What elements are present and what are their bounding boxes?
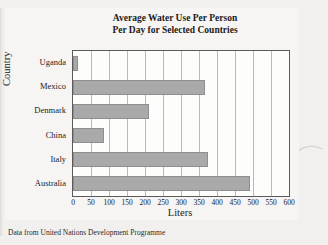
category-label: Denmark — [11, 98, 69, 122]
bar-row — [73, 51, 289, 75]
x-tick-label: 50 — [87, 198, 95, 207]
x-tick-label: 0 — [71, 198, 75, 207]
x-tick-label: 200 — [139, 198, 150, 207]
scan-text-fragment — [58, 0, 178, 8]
x-tick-label: 600 — [283, 198, 294, 207]
category-label: Mexico — [11, 74, 69, 98]
category-label: Uganda — [11, 50, 69, 74]
x-tick-label: 350 — [193, 198, 204, 207]
bar-italy — [73, 152, 208, 167]
bar-row — [73, 148, 289, 172]
source-note: Data from United Nations Development Pro… — [8, 228, 165, 237]
bar-row — [73, 75, 289, 99]
x-axis-title: Liters — [72, 207, 288, 218]
plot-area — [72, 50, 290, 197]
x-tick-label: 250 — [157, 198, 168, 207]
x-tick-label: 100 — [103, 198, 114, 207]
bar-denmark — [73, 104, 149, 119]
category-label: China — [11, 122, 69, 146]
bar-mexico — [73, 80, 205, 95]
category-axis-labels: UgandaMexicoDenmarkChinaItalyAustralia — [11, 50, 69, 195]
page-edge-shadow — [0, 8, 3, 236]
chart-title-line-1: Average Water Use Per Person — [60, 12, 290, 24]
x-tick-label: 300 — [175, 198, 186, 207]
bar-row — [73, 123, 289, 147]
x-tick-label: 150 — [121, 198, 132, 207]
chart-title: Average Water Use Per Person Per Day for… — [60, 12, 290, 36]
x-tick-label: 400 — [211, 198, 222, 207]
category-label: Australia — [11, 171, 69, 195]
category-label: Italy — [11, 147, 69, 171]
bar-australia — [73, 176, 250, 191]
x-tick-label: 550 — [265, 198, 276, 207]
chart-figure: Average Water Use Per Person Per Day for… — [5, 8, 299, 220]
chart-title-line-2: Per Day for Selected Countries — [60, 24, 290, 36]
bar-series — [73, 51, 289, 196]
bar-row — [73, 99, 289, 123]
bar-row — [73, 172, 289, 196]
x-tick-label: 500 — [247, 198, 258, 207]
bar-uganda — [73, 56, 78, 71]
x-tick-label: 450 — [229, 198, 240, 207]
bar-china — [73, 128, 104, 143]
